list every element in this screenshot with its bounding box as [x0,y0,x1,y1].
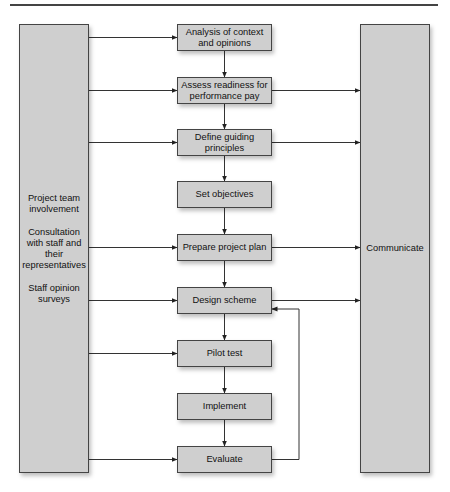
process-step-set-objectives: Set objectives [177,181,272,208]
involvement-panel: Project teaminvolvementConsultationwith … [19,24,89,473]
involvement-line: representatives [20,260,88,271]
step-label: Design scheme [192,295,256,306]
involvement-line: with staff and [20,238,88,249]
involvement-line: Consultation [20,227,88,238]
step-label: principles [205,143,244,154]
communicate-panel: Communicate [360,24,430,473]
step-label: Evaluate [206,454,242,465]
process-step-prepare-project-plan: Prepare project plan [177,234,272,261]
step-label: and opinions [198,38,251,49]
step-label: performance pay [190,91,260,102]
involvement-line: Project team [20,193,88,204]
involvement-line: surveys [20,294,88,305]
process-step-define-guiding-principles: Define guidingprinciples [177,129,272,156]
communicate-label: Communicate [361,243,429,253]
process-step-implement: Implement [177,393,272,420]
involvement-line: their [20,249,88,260]
involvement-group: Staff opinionsurveys [20,283,88,305]
step-label: Define guiding [195,132,254,143]
step-label: Assess readiness for [181,80,267,91]
step-label: Implement [203,401,246,412]
involvement-line: involvement [20,204,88,215]
process-step-design-scheme: Design scheme [177,287,272,314]
involvement-group: Project teaminvolvement [20,193,88,215]
step-label: Pilot test [207,348,243,359]
involvement-text: Project teaminvolvementConsultationwith … [20,193,88,317]
step-label: Set objectives [196,189,254,200]
involvement-line: Staff opinion [20,283,88,294]
process-step-evaluate: Evaluate [177,446,272,473]
step-label: Prepare project plan [183,242,267,253]
step-label: Analysis of context [186,27,264,38]
process-step-analysis-of-context-and-opinions: Analysis of contextand opinions [177,24,272,51]
process-step-assess-readiness-for-performance-pay: Assess readiness forperformance pay [177,77,272,104]
involvement-group: Consultationwith staff andtheirrepresent… [20,227,88,271]
process-step-pilot-test: Pilot test [177,340,272,367]
